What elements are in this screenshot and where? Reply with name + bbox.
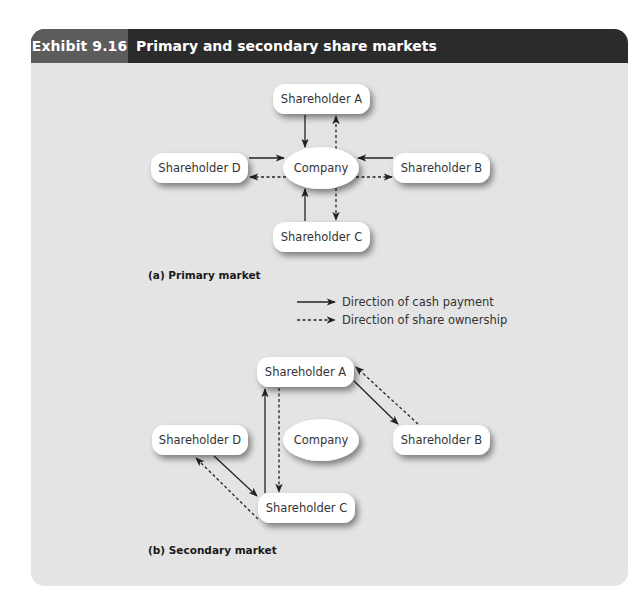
secondary-node-company: Company xyxy=(283,419,359,461)
primary-node-c: Shareholder C xyxy=(273,222,370,252)
secondary-node-a: Shareholder A xyxy=(257,357,354,387)
svg-text:Direction of cash payment: Direction of cash payment xyxy=(342,295,494,309)
legend: Direction of cash payment Direction of s… xyxy=(297,295,507,327)
svg-text:Shareholder A: Shareholder A xyxy=(281,92,362,106)
secondary-caption: (b) Secondary market xyxy=(148,544,277,556)
svg-text:Company: Company xyxy=(294,161,349,175)
secondary-arrow-b-to-a-shares xyxy=(356,367,418,424)
primary-node-d: Shareholder D xyxy=(151,153,248,183)
svg-text:Shareholder C: Shareholder C xyxy=(281,230,363,244)
svg-text:Shareholder B: Shareholder B xyxy=(401,161,482,175)
svg-text:Shareholder B: Shareholder B xyxy=(401,433,482,447)
primary-node-b: Shareholder B xyxy=(393,153,490,183)
svg-text:Shareholder D: Shareholder D xyxy=(158,161,240,175)
svg-text:Shareholder C: Shareholder C xyxy=(266,501,348,515)
primary-node-company: Company xyxy=(283,147,359,189)
primary-market-diagram: Shareholder A Shareholder D Shareholder … xyxy=(148,84,490,281)
legend-item-shares: Direction of share ownership xyxy=(297,313,507,327)
secondary-arrow-a-to-b-cash xyxy=(354,381,398,424)
svg-text:Shareholder A: Shareholder A xyxy=(265,365,346,379)
primary-node-a: Shareholder A xyxy=(273,84,370,114)
secondary-node-d: Shareholder D xyxy=(152,425,248,455)
svg-text:Company: Company xyxy=(294,433,349,447)
primary-caption: (a) Primary market xyxy=(148,269,261,281)
secondary-market-diagram: Shareholder A Shareholder B Shareholder … xyxy=(148,357,490,556)
secondary-node-b: Shareholder B xyxy=(393,425,490,455)
legend-item-cash: Direction of cash payment xyxy=(297,295,494,309)
svg-text:Direction of share ownership: Direction of share ownership xyxy=(342,313,507,327)
secondary-arrow-d-to-c-cash xyxy=(214,456,257,496)
share-market-diagram: Shareholder A Shareholder D Shareholder … xyxy=(0,0,640,611)
secondary-node-c: Shareholder C xyxy=(258,493,355,523)
svg-text:Shareholder D: Shareholder D xyxy=(159,433,241,447)
